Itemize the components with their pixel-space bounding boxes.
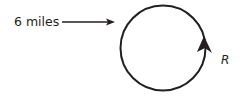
diagram-canvas: 6 miles R — [0, 0, 240, 108]
pointer-arrow-icon — [62, 19, 115, 26]
distance-label: 6 miles — [14, 14, 59, 29]
circular-route — [121, 6, 206, 91]
route-label: R — [221, 53, 229, 67]
diagram-svg: 6 miles R — [0, 0, 240, 108]
